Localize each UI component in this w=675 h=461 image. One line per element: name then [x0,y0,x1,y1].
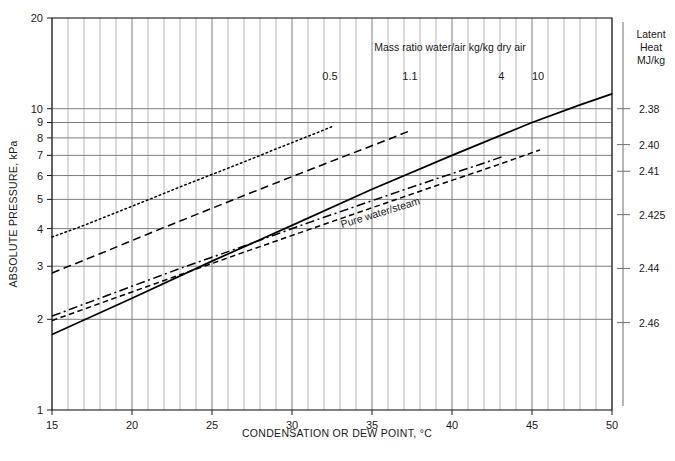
y-tick-label: 3 [37,260,43,272]
curve-label-1.1: 1.1 [402,70,417,82]
curve-label-10: 10 [532,70,544,82]
y-tick-label: 7 [37,149,43,161]
x-tick-label: 45 [526,419,538,431]
latent-heat-tick-label: 2.46 [639,317,660,329]
y-axis-title: ABSOLUTE PRESSURE, kPa [7,140,19,287]
latent-heat-title-line3: MJ/kg [637,54,665,66]
latent-heat-tick-label: 2.38 [639,103,660,115]
y-tick-label: 9 [37,116,43,128]
mass-ratio-note: Mass ratio water/air kg/kg dry air [374,41,526,53]
latent-heat-tick-label: 2.41 [639,165,660,177]
y-tick-label: 20 [31,12,43,24]
y-tick-label: 4 [37,223,43,235]
y-tick-label: 6 [37,170,43,182]
y-tick-label: 1 [37,404,43,416]
latent-heat-title-line2: Heat [640,41,662,53]
x-tick-label: 25 [206,419,218,431]
x-tick-label: 50 [606,419,618,431]
y-tick-label: 2 [37,313,43,325]
latent-heat-tick-label: 2.425 [639,209,665,221]
y-tick-label: 5 [37,193,43,205]
y-tick-label: 10 [31,103,43,115]
x-tick-label: 15 [46,419,58,431]
curve-label-4: 4 [498,70,504,82]
psychrometric-chart: 0.51.1410 1520253035404550 1234567891020… [0,0,675,461]
latent-heat-tick-label: 2.44 [639,262,660,274]
latent-heat-tick-label: 2.40 [639,139,660,151]
x-tick-label: 40 [446,419,458,431]
x-tick-label: 20 [126,419,138,431]
chart-page: 0.51.1410 1520253035404550 1234567891020… [0,0,675,461]
latent-heat-title-line1: Latent [636,28,665,40]
x-axis-title: CONDENSATION OR DEW POINT, °C [242,427,432,439]
y-tick-label: 8 [37,132,43,144]
curve-label-0.5: 0.5 [322,70,337,82]
